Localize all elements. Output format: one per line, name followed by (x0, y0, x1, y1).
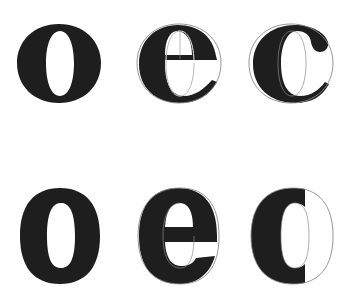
serif-o-glyph (0, 0, 120, 130)
letterform-construction-figure: Construction of letters e and c from let… (0, 0, 352, 305)
sans-e-glyph (120, 175, 240, 305)
sans-c-glyph (233, 175, 352, 305)
serif-c-glyph (233, 0, 352, 130)
sans-o-glyph (0, 175, 120, 305)
serif-e-glyph (120, 0, 240, 130)
